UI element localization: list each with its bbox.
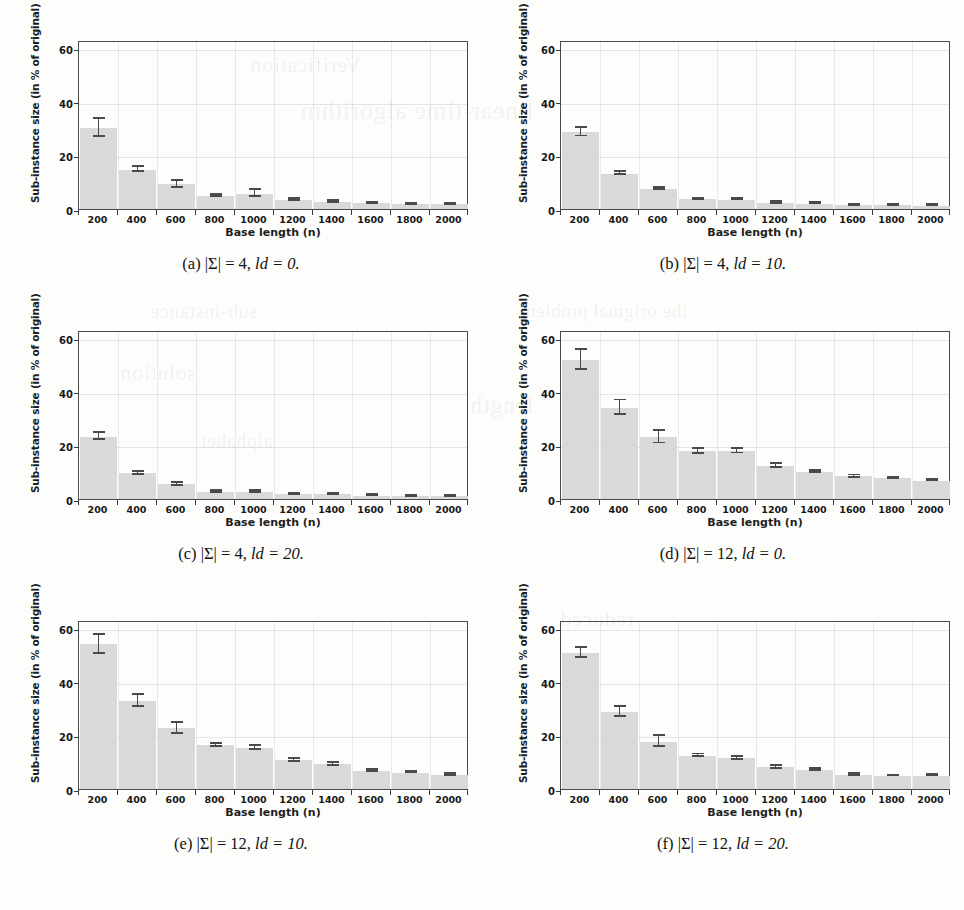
- y-axis-label: Sub-instance size (in % of original): [517, 13, 529, 203]
- bar-series: [79, 42, 467, 209]
- error-bar-cap-bottom: [692, 198, 704, 200]
- error-bar-cap-bottom: [653, 745, 665, 747]
- y-tick-label: 60: [59, 45, 79, 56]
- error-bar-cap-bottom: [731, 452, 743, 454]
- caption-alphabet-size: |Σ| = 12,: [197, 834, 251, 853]
- x-tick-label: 1000: [240, 214, 266, 225]
- x-axis-label: Base length (n): [560, 516, 950, 529]
- error-bar-cap-top: [327, 761, 339, 763]
- x-tick-label: 2000: [435, 504, 461, 515]
- y-tick-label: 60: [59, 335, 79, 346]
- error-bar-cap-top: [653, 429, 665, 431]
- x-tick-label: 200: [570, 504, 590, 515]
- error-bar-cap-bottom: [731, 758, 743, 760]
- bar: [874, 776, 911, 789]
- error-bar-cap-bottom: [731, 199, 743, 201]
- x-tick-label: 800: [687, 214, 707, 225]
- x-tick-label: 800: [205, 214, 225, 225]
- x-tick-label: 400: [609, 214, 629, 225]
- bar: [757, 767, 794, 789]
- bar: [835, 775, 872, 789]
- error-bar-cap-bottom: [848, 774, 860, 776]
- error-bar-cap-top: [731, 447, 743, 449]
- caption-ld-value: ld = 20.: [736, 834, 789, 853]
- x-tick-label: 200: [88, 794, 108, 805]
- error-bar-cap-bottom: [444, 203, 456, 205]
- error-bar-cap-bottom: [405, 495, 417, 497]
- error-bar-cap-bottom: [288, 493, 300, 495]
- x-tick-label: 200: [88, 214, 108, 225]
- bar: [835, 205, 872, 209]
- bar: [392, 773, 429, 789]
- bar-slot: [430, 332, 469, 499]
- bar-slot: [118, 42, 157, 209]
- x-tick-label: 1000: [722, 504, 748, 515]
- error-bar-cap-bottom: [210, 491, 222, 493]
- figure-grid: Sub-instance size (in % of original)0204…: [0, 0, 964, 910]
- x-axis-label: Base length (n): [78, 226, 468, 239]
- error-bar-cap-bottom: [692, 755, 704, 757]
- plot-frame: 0204060: [560, 331, 950, 500]
- error-bar-cap-bottom: [132, 170, 144, 172]
- error-bar-cap-bottom: [288, 199, 300, 201]
- error-bar-cap-bottom: [366, 202, 378, 204]
- bar-slot: [391, 332, 430, 499]
- bar-slot: [79, 622, 118, 789]
- error-bar-cap-bottom: [327, 764, 339, 766]
- bar: [353, 771, 390, 789]
- x-tick-label: 1800: [396, 794, 422, 805]
- bar: [158, 728, 195, 789]
- bar: [353, 203, 390, 209]
- bar-slot: [235, 332, 274, 499]
- bar-slot: [157, 42, 196, 209]
- bar: [314, 202, 351, 209]
- x-tick-label: 1600: [839, 794, 865, 805]
- bar: [158, 484, 195, 499]
- bar: [197, 492, 234, 499]
- error-bar-cap-bottom: [614, 715, 626, 717]
- bar-slot: [600, 42, 639, 209]
- x-tick-label: 600: [166, 794, 186, 805]
- error-bar-cap-top: [171, 721, 183, 723]
- bar-slot: [391, 622, 430, 789]
- figure-caption-e: (e) |Σ| = 12, ld = 10.: [0, 834, 482, 854]
- x-tick-label: 1400: [318, 794, 344, 805]
- bar-slot: [873, 42, 912, 209]
- error-bar-cap-bottom: [848, 204, 860, 206]
- x-tick-label: 1800: [878, 214, 904, 225]
- x-tick-label: 600: [648, 504, 668, 515]
- bar: [913, 776, 950, 789]
- error-bar-cap-bottom: [575, 135, 587, 137]
- bar-slot: [795, 332, 834, 499]
- error-bar-cap-top: [575, 348, 587, 350]
- error-bar-cap-bottom: [210, 745, 222, 747]
- plot-frame: 0204060: [78, 621, 468, 790]
- y-axis-label: Sub-instance size (in % of original): [29, 13, 41, 203]
- error-bar-cap-top: [249, 744, 261, 746]
- plot-frame: 0204060: [560, 621, 950, 790]
- bar-slot: [235, 42, 274, 209]
- error-bar-cap-bottom: [132, 705, 144, 707]
- error-bar-cap-bottom: [171, 484, 183, 486]
- bar-slot: [873, 332, 912, 499]
- bar-slot: [912, 332, 951, 499]
- bar-slot: [756, 42, 795, 209]
- bar: [796, 770, 833, 789]
- bar-slot: [313, 622, 352, 789]
- caption-label: (c): [178, 544, 196, 563]
- bar: [275, 760, 312, 789]
- caption-label: (b): [660, 254, 679, 273]
- bar-slot: [678, 332, 717, 499]
- figure-caption-d: (d) |Σ| = 12, ld = 0.: [482, 544, 964, 564]
- error-bar-cap-bottom: [405, 203, 417, 205]
- y-tick-label: 40: [59, 678, 79, 689]
- caption-alphabet-size: |Σ| = 12,: [683, 544, 737, 563]
- caption-ld-value: ld = 10.: [733, 254, 786, 273]
- error-bar-cap-bottom: [366, 770, 378, 772]
- plot-area-c: Sub-instance size (in % of original)0204…: [0, 298, 482, 536]
- bar-slot: [196, 622, 235, 789]
- bar: [275, 494, 312, 499]
- x-tick-label: 600: [648, 214, 668, 225]
- bar: [197, 745, 234, 789]
- x-axis-label: Base length (n): [78, 516, 468, 529]
